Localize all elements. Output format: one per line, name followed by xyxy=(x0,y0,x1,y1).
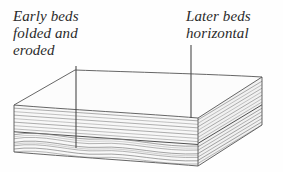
block-diagram-figure: Early beds folded and eroded Later beds … xyxy=(0,0,283,172)
block-diagram-svg xyxy=(0,0,283,172)
